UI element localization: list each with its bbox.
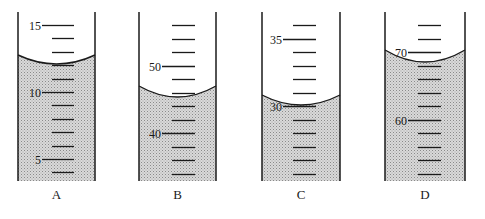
cylinder-b: 5040B: [139, 12, 216, 202]
tick-label: 15: [29, 19, 41, 33]
tick-label: 10: [29, 86, 41, 100]
tick-label: 70: [395, 46, 407, 60]
tick-label: 35: [270, 33, 282, 47]
cylinder-label: D: [420, 187, 429, 202]
tick-label: 30: [270, 100, 282, 114]
liquid: [18, 55, 95, 181]
tick-label: 40: [149, 127, 161, 141]
cylinder-label: B: [173, 187, 182, 202]
cylinder-label: A: [52, 187, 62, 202]
tick-label: 5: [35, 153, 41, 167]
cylinder-c: 3530C: [262, 12, 340, 202]
tick-label: 60: [395, 114, 407, 128]
cylinder-a: 15105A: [18, 12, 95, 202]
cylinder-label: C: [297, 187, 306, 202]
cylinders-svg: 15105A5040B3530C7060D: [0, 0, 485, 219]
tick-label: 50: [149, 60, 161, 74]
cylinder-d: 7060D: [385, 12, 465, 202]
graduated-cylinders-figure: 15105A5040B3530C7060D: [0, 0, 485, 219]
